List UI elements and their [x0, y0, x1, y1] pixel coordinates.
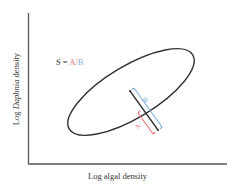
formula-label: S = A/B	[56, 57, 84, 67]
y-axis-label-suffix: density	[11, 53, 21, 80]
bracket-b-label: B	[141, 95, 150, 104]
x-axis-label: Log algal density	[88, 171, 147, 181]
y-axis-label-italic: Daphnia	[11, 80, 21, 110]
y-axis-label: Log Daphnia density	[11, 53, 21, 125]
formula-denominator: B	[78, 57, 84, 67]
y-axis-label-prefix: Log	[11, 109, 21, 125]
transect-end-bottom	[157, 129, 159, 131]
diagram-canvas: B A	[0, 0, 237, 189]
transect-end-top	[129, 90, 131, 92]
formula-lhs: S =	[56, 57, 69, 67]
bracket-a-label: A	[133, 122, 142, 131]
